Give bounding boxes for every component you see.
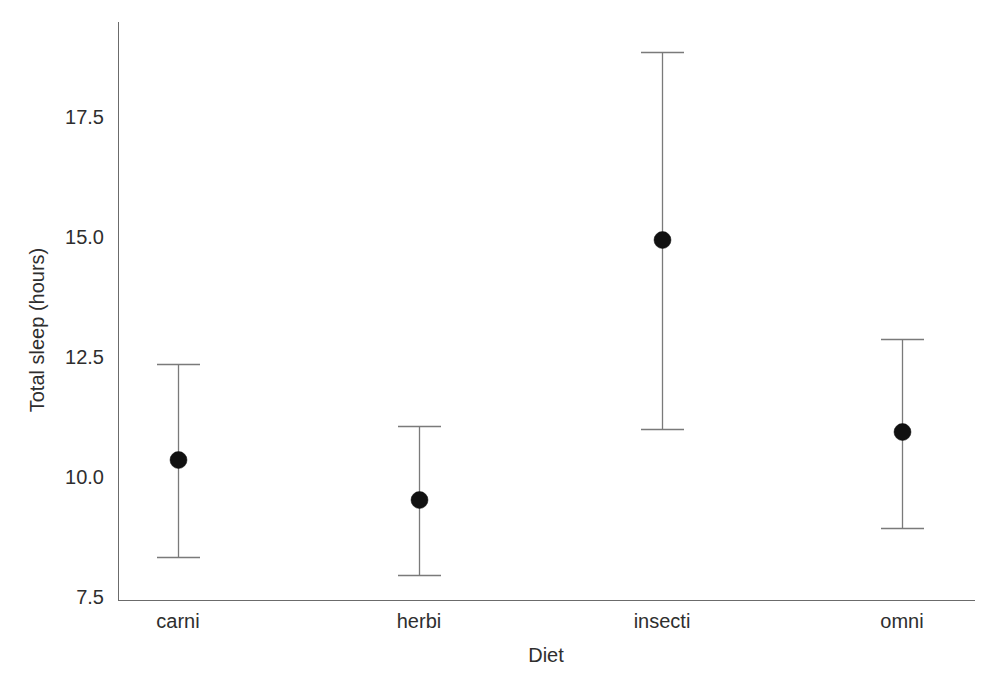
x-tick-label-herbi: herbi	[397, 610, 441, 632]
y-tick-label-17-5: 17.5	[65, 106, 104, 128]
errorbar-plot: 17.5 15.0 12.5 10.0 7.5	[0, 0, 1002, 686]
data-point-carni	[170, 452, 187, 469]
y-tick-label-10-0: 10.0	[65, 466, 104, 488]
x-axis-title: Diet	[528, 644, 564, 666]
y-axis-title: Total sleep (hours)	[26, 248, 48, 413]
x-tick-label-omni: omni	[880, 610, 923, 632]
data-point-insecti	[654, 232, 671, 249]
x-tick-label-carni: carni	[156, 610, 199, 632]
y-tick-label-12-5: 12.5	[65, 346, 104, 368]
datagroup-carni	[157, 364, 200, 558]
y-tick-label-7-5: 7.5	[76, 586, 104, 608]
y-tick-label-15-0: 15.0	[65, 226, 104, 248]
x-tick-label-insecti: insecti	[634, 610, 691, 632]
chart-figure: 17.5 15.0 12.5 10.0 7.5	[0, 0, 1002, 686]
datagroup-herbi	[398, 426, 441, 576]
data-point-herbi	[411, 492, 428, 509]
datagroup-insecti	[641, 52, 684, 430]
datagroup-omni	[881, 339, 924, 529]
axis-lines	[119, 22, 976, 601]
data-point-omni	[894, 424, 911, 441]
